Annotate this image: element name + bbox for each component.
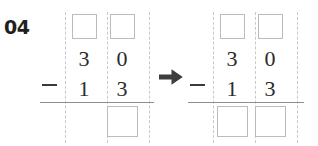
column-guide-line-left-2 bbox=[213, 12, 214, 143]
answer-box-ones-left[interactable] bbox=[107, 106, 138, 137]
subtrahend-digit-ones-right: 3 bbox=[258, 78, 282, 100]
minuend-digit-tens-left: 3 bbox=[72, 48, 96, 70]
subtraction-problem-left: 3 0 1 3 bbox=[36, 0, 154, 146]
answer-box-tens-right[interactable] bbox=[217, 106, 248, 137]
carry-box-tens-left[interactable] bbox=[72, 14, 97, 39]
subtraction-problem-right: 3 0 1 3 bbox=[184, 0, 304, 146]
carry-box-ones-right[interactable] bbox=[258, 14, 283, 39]
carry-box-tens-right[interactable] bbox=[220, 14, 245, 39]
right-arrow-icon bbox=[158, 68, 184, 86]
minuend-digit-tens-right: 3 bbox=[220, 48, 244, 70]
subtrahend-digit-tens-right: 1 bbox=[220, 78, 244, 100]
carry-box-ones-left[interactable] bbox=[110, 14, 135, 39]
column-guide-line-left bbox=[65, 12, 66, 143]
subtraction-rule-left bbox=[40, 102, 154, 103]
minuend-digit-ones-right: 0 bbox=[258, 48, 282, 70]
column-guide-line-right bbox=[149, 12, 150, 143]
minuend-digit-ones-left: 0 bbox=[110, 48, 134, 70]
column-guide-line-right-2 bbox=[297, 12, 298, 143]
problem-number: 04 bbox=[4, 18, 29, 37]
minus-operator-left bbox=[42, 84, 57, 86]
answer-box-ones-right[interactable] bbox=[255, 106, 286, 137]
minus-operator-right bbox=[190, 84, 205, 86]
subtrahend-digit-tens-left: 1 bbox=[72, 78, 96, 100]
subtrahend-digit-ones-left: 3 bbox=[110, 78, 134, 100]
subtraction-rule-right bbox=[188, 102, 304, 103]
